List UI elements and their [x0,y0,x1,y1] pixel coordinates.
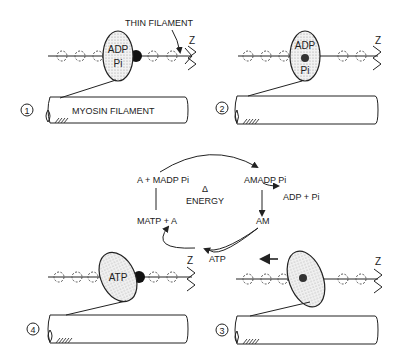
svg-text:A + MADP Pi: A + MADP Pi [137,175,189,185]
cycle: A + MADP Pi AMADP Pi ADP + Pi AM ATP MAT… [137,155,320,264]
svg-text:1: 1 [24,106,29,116]
panel-4: Z ATP 4 [27,246,195,343]
svg-text:Pi: Pi [301,65,310,76]
svg-text:ENERGY: ENERGY [186,196,224,206]
panel-3: Z 3 [216,246,382,344]
svg-text:AMADP Pi: AMADP Pi [244,175,286,185]
thin-filament-label: THIN FILAMENT [125,18,194,28]
svg-text:ADP + Pi: ADP + Pi [283,192,320,202]
myosin-filament-label: MYOSIN FILAMENT [72,106,155,116]
svg-text:2: 2 [219,104,224,114]
svg-text:ATP: ATP [109,272,128,283]
svg-text:Pi: Pi [114,58,123,69]
myosin-head [103,31,133,81]
bound-site [301,54,309,62]
svg-text:AM: AM [256,216,270,226]
svg-text:ATP: ATP [209,254,226,264]
panel-2: Z ADP Pi 2 [216,31,381,124]
svg-text:Z: Z [375,35,381,46]
svg-text:4: 4 [30,325,35,335]
crossbridge-cycle-diagram: Z ADP Pi THIN FILAMENT 1 MYOSIN FILAMENT… [0,0,404,363]
panel-1: Z ADP Pi THIN FILAMENT 1 MYOSIN FILAMENT [21,18,196,123]
svg-text:ADP: ADP [295,40,316,51]
svg-text:3: 3 [219,326,224,336]
svg-text:ADP: ADP [108,44,129,55]
svg-text:Δ: Δ [202,184,208,194]
svg-text:Z: Z [187,255,193,266]
svg-text:Z: Z [375,256,381,267]
z-label: Z [189,35,195,46]
svg-text:MATP + A: MATP + A [137,216,177,226]
